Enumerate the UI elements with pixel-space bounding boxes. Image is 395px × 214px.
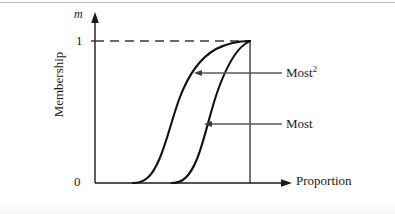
y-axis-title: Membership [52,25,65,145]
x-axis-arrow-icon [281,179,292,187]
callout-most-squared-arrow-icon [194,70,202,76]
y-axis-group [91,12,99,183]
series-label-most-squared-exponent: 2 [313,64,317,74]
callout-most [204,121,282,127]
series-label-most-squared-text: Most [286,65,313,80]
page-bottom-smudge [0,204,395,214]
x-axis-group [95,179,292,187]
y-axis-symbol-label: m [74,8,83,20]
y-tick-label-zero: 0 [74,175,81,188]
curve-most-squared [133,41,250,183]
x-axis-title: Proportion [296,174,352,187]
y-tick-label-one: 1 [76,34,83,47]
curve-most [172,41,250,183]
series-label-most: Most [286,117,313,130]
callout-most-squared [194,70,282,76]
figure-root: m 1 0 Membership Proportion Most2 Most [0,0,395,214]
series-label-most-squared: Most2 [286,66,317,79]
y-axis-arrow-icon [91,12,99,23]
